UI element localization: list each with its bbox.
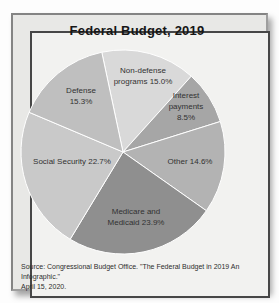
page: Federal Budget, 2019 Non-defense program… — [0, 0, 279, 303]
pie-chart — [19, 48, 227, 256]
source-note: Source: Congressional Budget Office. "Th… — [21, 262, 255, 292]
chart-title: Federal Budget, 2019 — [17, 23, 257, 38]
